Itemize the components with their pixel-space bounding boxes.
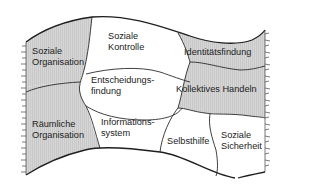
label-line: Organisation <box>32 57 84 68</box>
label-line: Organisation <box>32 130 84 141</box>
label-informationssystem: Informations- system <box>101 117 155 139</box>
label-line: system <box>101 128 155 139</box>
label-line: Kontrolle <box>108 42 144 53</box>
frayed-left-edge <box>21 42 26 175</box>
label-identitaetsfindung: Identitätsfindung <box>184 47 251 58</box>
label-line: Kollektives Handeln <box>176 84 257 95</box>
label-line: findung <box>91 86 154 97</box>
label-line: Selbsthilfe <box>167 136 209 147</box>
label-soziale-sicherheit: Soziale Sicherheit <box>221 130 262 152</box>
label-line: Informations- <box>101 117 155 128</box>
label-selbsthilfe: Selbsthilfe <box>167 136 209 147</box>
label-soziale-kontrolle: Soziale Kontrolle <box>108 31 144 53</box>
label-line: Sicherheit <box>221 141 262 152</box>
label-line: Identitätsfindung <box>184 47 251 58</box>
label-line: Soziale <box>221 130 262 141</box>
frayed-right-edge <box>265 30 270 172</box>
region-identitaetsfindung <box>178 0 286 70</box>
label-line: Entscheidungs- <box>91 75 154 86</box>
label-line: Soziale <box>108 31 144 42</box>
label-entscheidungsfindung: Entscheidungs- findung <box>91 75 154 97</box>
label-soziale-organisation: Soziale Organisation <box>32 46 84 68</box>
label-raeumliche-organisation: Räumliche Organisation <box>32 119 84 141</box>
label-kollektives-handeln: Kollektives Handeln <box>176 84 257 95</box>
label-line: Räumliche <box>32 119 84 130</box>
label-line: Soziale <box>32 46 84 57</box>
